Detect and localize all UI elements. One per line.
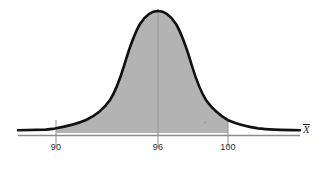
shaded-area-region	[56, 11, 228, 133]
tick-label-100: 100	[220, 142, 236, 152]
xbar-letter: X	[303, 124, 310, 135]
scan-artifact-speck	[204, 121, 206, 123]
tick-label-90: 90	[51, 142, 61, 152]
tick-label-96: 96	[153, 142, 163, 152]
axis-variable-label-xbar: X	[303, 124, 310, 135]
normal-distribution-figure: 90 96 100 X	[0, 0, 322, 171]
